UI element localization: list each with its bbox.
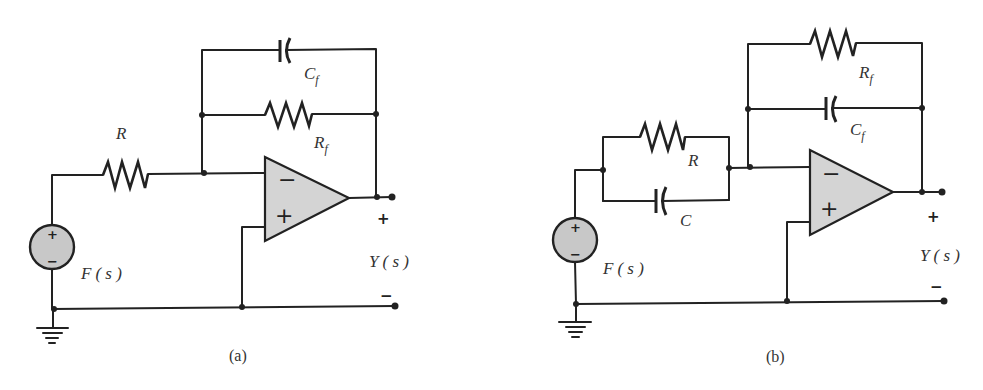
opamp-plus-sign-a: + <box>275 203 293 228</box>
junction-dot <box>784 298 790 304</box>
input-resistor-r-a <box>52 162 265 226</box>
source-minus-sign-a: − <box>47 254 58 269</box>
label-fs-a: F( s ) <box>80 264 122 283</box>
noninv-ground-wire-b <box>787 222 810 301</box>
junction-dot <box>239 304 245 310</box>
circuit-b: − + + − R <box>553 31 960 366</box>
source-minus-sign-b: − <box>570 247 581 262</box>
output-wire-a <box>349 197 392 198</box>
label-cf-a: Cf <box>304 64 320 87</box>
label-ys-b: Y( s ) <box>920 246 960 265</box>
caption-a: (a) <box>229 347 247 365</box>
junction-dot <box>374 194 380 200</box>
output-terminal-minus-b <box>941 298 948 305</box>
feedback-resistor-rf-a <box>202 103 376 127</box>
label-c-b: C <box>680 211 692 230</box>
junction-dot <box>201 170 207 176</box>
output-minus-sign-a: − <box>380 287 393 305</box>
label-r-b: R <box>687 151 699 170</box>
junction-dot <box>373 111 379 117</box>
output-plus-sign-b: + <box>927 208 940 226</box>
junction-dot <box>747 164 753 170</box>
opamp-plus-sign-b: + <box>820 196 838 221</box>
label-r-a: R <box>115 124 127 143</box>
label-fs-b: F( s ) <box>602 259 644 278</box>
label-rf-b: Rf <box>858 63 874 86</box>
junction-dot <box>919 105 925 111</box>
opamp-b: − + <box>810 150 893 235</box>
caption-b: (b) <box>766 348 785 366</box>
circuit-figure: − + + − R Cf <box>0 0 983 390</box>
label-cf-b: Cf <box>850 120 866 143</box>
opamp-minus-sign-a: − <box>278 167 296 192</box>
opamp-a: − + <box>265 157 349 241</box>
ground-icon-b <box>559 304 591 337</box>
label-ys-a: Y( s ) <box>369 252 409 271</box>
label-rf-a: Rf <box>313 133 329 156</box>
source-plus-sign-a: + <box>47 227 58 242</box>
opamp-minus-sign-b: − <box>822 161 840 186</box>
junction-dot <box>573 301 579 307</box>
junction-dot <box>745 106 751 112</box>
output-terminal-plus-b <box>939 189 946 196</box>
junction-dot <box>600 167 606 173</box>
feedback-capacitor-cf-b <box>748 96 922 122</box>
noninv-ground-wire-a <box>242 227 265 307</box>
ground-icon-a <box>37 309 68 343</box>
output-minus-sign-b: − <box>930 278 943 296</box>
voltage-source-b: + − <box>553 218 597 262</box>
junction-dot <box>51 306 57 312</box>
output-plus-sign-a: + <box>377 210 390 228</box>
circuit-a: − + + − R Cf <box>30 38 409 365</box>
voltage-source-a: + − <box>30 225 74 269</box>
junction-dot <box>919 189 925 195</box>
junction-dot <box>726 165 732 171</box>
output-terminal-plus-a <box>389 194 396 201</box>
junction-dot <box>199 112 205 118</box>
input-network-b <box>575 124 810 218</box>
source-plus-sign-b: + <box>570 220 581 235</box>
